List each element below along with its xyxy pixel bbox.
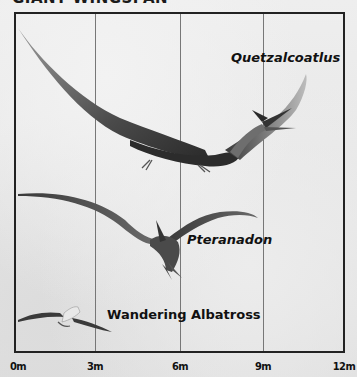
label-wandering-albatross: Wandering Albatross (107, 307, 261, 322)
axis-tick-0m: 0m (10, 360, 26, 373)
label-pteranadon: Pteranadon (187, 232, 272, 247)
axis-tick-12m: 12m (333, 360, 356, 373)
axis-tick-9m: 9m (255, 360, 271, 373)
axis-tick-6m: 6m (172, 360, 188, 373)
axis-tick-3m: 3m (87, 360, 103, 373)
label-quetzalcoatlus: Quetzalcoatlus (231, 50, 340, 65)
